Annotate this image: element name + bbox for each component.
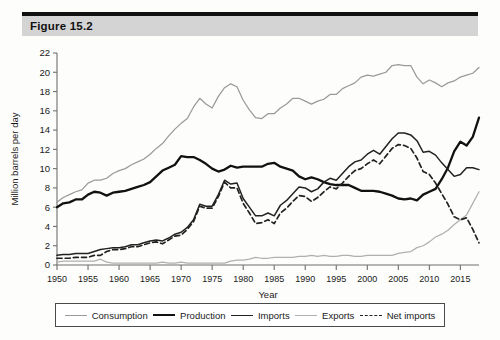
legend-item-production[interactable]: Production	[153, 310, 225, 321]
legend-label-imports: Imports	[258, 310, 290, 321]
x-axis-tick-label: 2015	[450, 274, 470, 284]
y-axis-tick-label: 16	[39, 105, 50, 116]
x-axis-tick-label: 1950	[47, 274, 67, 284]
y-axis-title: Million barrels per day	[9, 112, 20, 205]
legend-swatch-consumption	[65, 315, 87, 316]
y-axis-tick-label: 4	[45, 221, 50, 232]
x-axis-tick-label: 1965	[140, 274, 160, 284]
x-axis-tick-label: 1975	[202, 274, 222, 284]
legend-label-production: Production	[180, 310, 225, 321]
x-axis-tick-label: 1990	[295, 274, 315, 284]
x-axis-tick-label: 1980	[233, 274, 253, 284]
x-axis-tick-label: 1970	[171, 274, 191, 284]
series-line-production	[57, 118, 479, 208]
y-axis-tick-label: 12	[39, 144, 50, 155]
y-axis-tick-label: 20	[39, 67, 50, 78]
chart-plot-area: 0246810121416182022195019551960196519701…	[0, 0, 500, 340]
y-axis-tick-label: 14	[39, 124, 50, 135]
legend-label-consumption: Consumption	[92, 310, 148, 321]
y-axis-tick-label: 10	[39, 163, 50, 174]
legend-swatch-exports	[295, 315, 317, 316]
x-axis-tick-label: 2010	[419, 274, 439, 284]
x-axis-tick-label: 1995	[326, 274, 346, 284]
series-line-imports	[57, 133, 479, 255]
series-line-exports	[57, 192, 479, 263]
legend-label-exports: Exports	[322, 310, 354, 321]
y-axis-tick-label: 22	[39, 47, 50, 58]
series-line-net_imports	[57, 145, 479, 259]
y-axis-tick-label: 6	[45, 202, 50, 213]
x-axis-tick-label: 1960	[109, 274, 129, 284]
x-axis-tick-label: 2000	[357, 274, 377, 284]
y-axis-tick-label: 18	[39, 86, 50, 97]
legend-item-net_imports[interactable]: Net imports	[360, 310, 436, 321]
x-axis-tick-label: 1955	[78, 274, 98, 284]
y-axis-tick-label: 8	[45, 182, 50, 193]
y-axis-tick-label: 0	[45, 259, 50, 270]
chart-legend: ConsumptionProductionImportsExportsNet i…	[55, 303, 445, 327]
y-axis-tick-label: 2	[45, 240, 50, 251]
legend-swatch-net_imports	[360, 315, 382, 316]
series-line-consumption	[57, 65, 479, 203]
legend-item-consumption[interactable]: Consumption	[65, 310, 148, 321]
line-chart: 0246810121416182022195019551960196519701…	[0, 0, 500, 340]
legend-item-exports[interactable]: Exports	[295, 310, 354, 321]
x-axis-tick-label: 1985	[264, 274, 284, 284]
x-axis-tick-label: 2005	[388, 274, 408, 284]
figure-container: Figure 15.2 0246810121416182022195019551…	[0, 0, 500, 340]
chart-axes	[57, 53, 479, 265]
x-axis-title: Year	[258, 289, 277, 300]
legend-swatch-production	[153, 314, 175, 316]
legend-swatch-imports	[231, 315, 253, 316]
legend-label-net_imports: Net imports	[387, 310, 436, 321]
legend-item-imports[interactable]: Imports	[231, 310, 290, 321]
